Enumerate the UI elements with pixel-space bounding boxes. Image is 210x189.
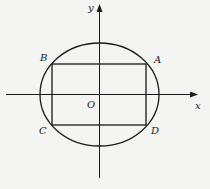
diagram-canvas: y x O B A C D [0, 0, 210, 189]
point-b-label: B [40, 53, 47, 63]
diagram-svg [0, 0, 210, 189]
point-c-label: C [39, 126, 47, 136]
origin-label: O [87, 100, 95, 110]
x-axis-label: x [195, 101, 201, 111]
point-d-label: D [151, 126, 159, 136]
y-axis-label: y [88, 3, 94, 13]
point-a-label: A [154, 55, 161, 65]
